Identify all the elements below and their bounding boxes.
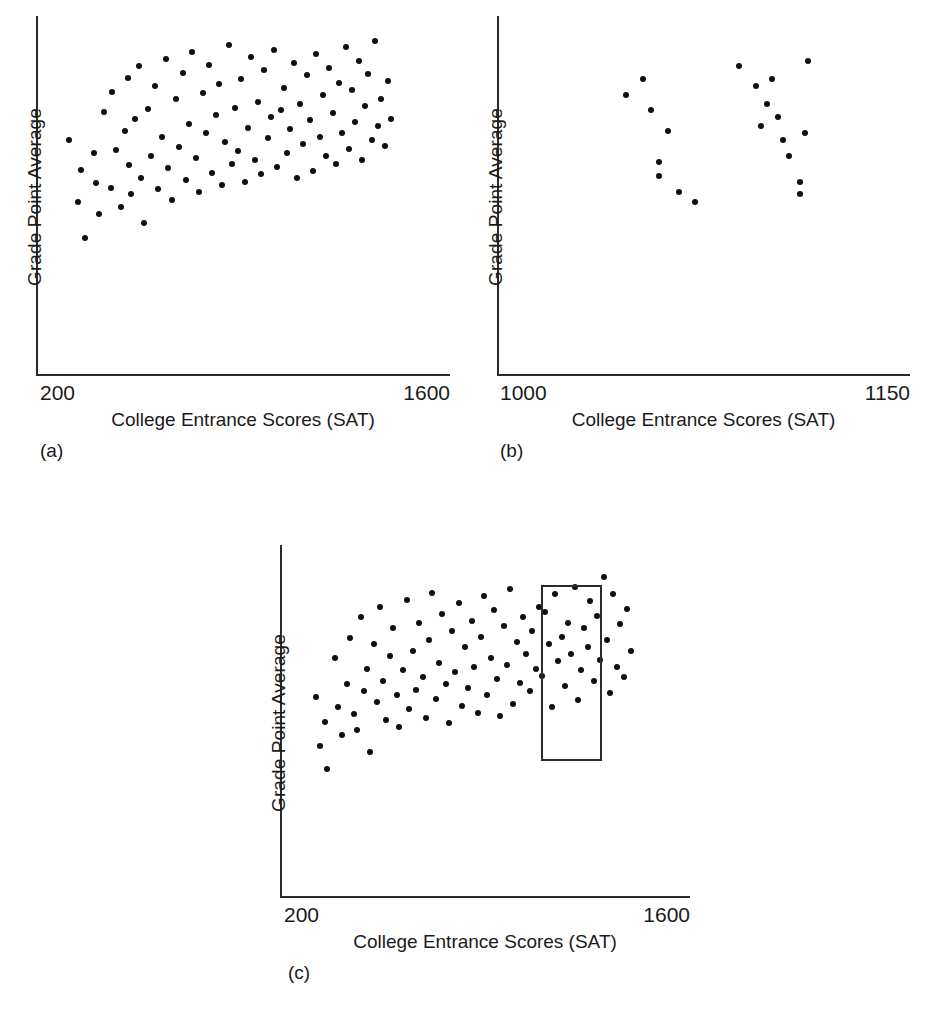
scatter-point <box>317 743 323 749</box>
scatter-point <box>180 70 186 76</box>
scatter-point <box>802 130 808 136</box>
scatter-point <box>66 137 72 143</box>
panel-caption-b: (b) <box>500 440 523 462</box>
scatter-point <box>475 710 481 716</box>
scatter-point <box>624 606 630 612</box>
scatter-point <box>165 165 171 171</box>
scatter-point <box>465 685 471 691</box>
scatter-point <box>640 76 646 82</box>
scatter-point <box>183 177 189 183</box>
scatter-point <box>478 634 484 640</box>
scatter-point <box>213 112 219 118</box>
scatter-point <box>433 696 439 702</box>
scatter-point <box>300 141 306 147</box>
scatter-point <box>322 719 328 725</box>
scatter-point <box>268 114 274 120</box>
scatter-point <box>155 186 161 192</box>
scatter-point <box>82 235 88 241</box>
scatter-point <box>420 674 426 680</box>
x-axis-label-b: College Entrance Scores (SAT) <box>497 409 910 431</box>
scatter-point <box>297 101 303 107</box>
scatter-point <box>349 87 355 93</box>
y-axis-label-b: Grade Point Average <box>485 108 507 286</box>
scatter-point <box>278 107 284 113</box>
x-tick-max-b: 1150 <box>790 381 910 405</box>
scatter-point <box>336 80 342 86</box>
scatter-point <box>101 109 107 115</box>
scatter-point <box>456 600 462 606</box>
y-axis-label-c: Grade Point Average <box>268 634 290 812</box>
scatter-point <box>676 189 682 195</box>
scatter-point <box>780 137 786 143</box>
scatter-point <box>383 717 389 723</box>
x-tick-min-b: 1000 <box>500 381 547 405</box>
x-tick-max-a: 1600 <box>330 381 450 405</box>
scatter-point <box>347 635 353 641</box>
scatter-point <box>764 101 770 107</box>
scatter-point <box>122 128 128 134</box>
scatter-point <box>469 618 475 624</box>
scatter-point <box>436 660 442 666</box>
scatter-point <box>346 146 352 152</box>
scatter-point <box>378 96 384 102</box>
scatter-point <box>125 75 131 81</box>
scatter-point <box>219 182 225 188</box>
scatter-point <box>369 137 375 143</box>
scatter-point <box>358 614 364 620</box>
scatter-point <box>406 706 412 712</box>
scatter-point <box>394 692 400 698</box>
x-tick-min-a: 200 <box>40 381 75 405</box>
scatter-points-a <box>36 16 450 376</box>
scatter-point <box>271 47 277 53</box>
scatter-point <box>375 123 381 129</box>
scatter-point <box>623 92 629 98</box>
scatter-point <box>775 114 781 120</box>
scatter-point <box>222 139 228 145</box>
scatter-point <box>91 150 97 156</box>
scatter-point <box>196 189 202 195</box>
scatter-point <box>242 179 248 185</box>
scatter-point <box>362 103 368 109</box>
scatter-point <box>109 89 115 95</box>
scatter-point <box>310 168 316 174</box>
scatter-point <box>753 83 759 89</box>
scatter-point <box>797 191 803 197</box>
scatter-point <box>96 211 102 217</box>
scatter-point <box>400 667 406 673</box>
scatter-point <box>601 574 607 580</box>
scatter-point <box>377 604 383 610</box>
scatter-point <box>385 78 391 84</box>
panel-b: Grade Point Average 1000 1150 College En… <box>460 0 930 470</box>
scatter-point <box>429 590 435 596</box>
scatter-point <box>343 44 349 50</box>
panel-caption-c: (c) <box>288 962 310 984</box>
scatter-point <box>459 703 465 709</box>
scatter-point <box>281 85 287 91</box>
scatter-point <box>128 191 134 197</box>
scatter-point <box>491 607 497 613</box>
scatter-point <box>320 92 326 98</box>
scatter-point <box>380 678 386 684</box>
scatter-point <box>523 651 529 657</box>
scatter-point <box>514 639 520 645</box>
scatter-point <box>396 724 402 730</box>
scatter-point <box>344 681 350 687</box>
scatter-point <box>648 107 654 113</box>
scatter-point <box>656 159 662 165</box>
scatter-point <box>248 54 254 60</box>
scatter-point <box>284 150 290 156</box>
scatter-point <box>258 171 264 177</box>
scatter-point <box>265 135 271 141</box>
scatter-point <box>176 144 182 150</box>
x-axis-label-c: College Entrance Scores (SAT) <box>280 931 690 953</box>
scatter-point <box>173 96 179 102</box>
scatter-point <box>805 58 811 64</box>
scatter-point <box>533 666 539 672</box>
scatter-point <box>488 655 494 661</box>
scatter-point <box>245 125 251 131</box>
scatter-point <box>226 42 232 48</box>
scatter-point <box>413 687 419 693</box>
scatter-point <box>291 60 297 66</box>
scatter-point <box>159 134 165 140</box>
scatter-point <box>692 199 698 205</box>
